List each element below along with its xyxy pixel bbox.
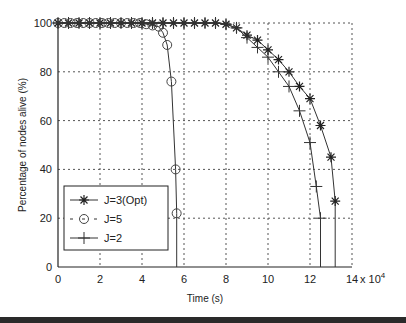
x-axis-label: Time (s) [187, 293, 223, 304]
x-tick-label: 4 [139, 273, 145, 285]
marker-plus [168, 17, 180, 29]
marker-plus [210, 17, 222, 29]
y-axis-label: Percentage of nodes alive (%) [17, 78, 28, 212]
marker-star [295, 81, 305, 91]
marker-star [274, 55, 284, 65]
marker-plus [178, 17, 190, 29]
y-tick-label: 80 [40, 66, 52, 78]
marker-star [79, 195, 89, 205]
marker-plus [273, 66, 285, 78]
marker-plus [283, 80, 295, 92]
y-tick-label: 0 [46, 261, 52, 273]
y-tick-label: 20 [40, 212, 52, 224]
marker-plus [310, 180, 322, 192]
chart: 02468101214020406080100x 104Time (s)Perc… [0, 0, 406, 323]
y-tick-label: 40 [40, 163, 52, 175]
y-tick-label: 100 [34, 17, 52, 29]
marker-star [330, 196, 340, 206]
x-tick-label: 2 [97, 273, 103, 285]
x-multiplier-label: x 104 [360, 271, 386, 285]
x-tick-label: 12 [304, 273, 316, 285]
legend-label: J=5 [104, 213, 122, 225]
x-tick-label: 10 [262, 273, 274, 285]
marker-plus [304, 137, 316, 149]
x-tick-label: 0 [55, 273, 61, 285]
y-tick-label: 60 [40, 115, 52, 127]
marker-star [326, 152, 336, 162]
x-tick-label: 14 [346, 273, 358, 285]
marker-plus [189, 17, 201, 29]
marker-star [284, 67, 294, 77]
marker-plus [220, 18, 232, 30]
marker-plus [315, 212, 327, 224]
marker-plus [294, 105, 306, 117]
x-tick-label: 6 [181, 273, 187, 285]
marker-star [305, 94, 315, 104]
x-tick-label: 8 [223, 273, 229, 285]
legend-label: J=3(Opt) [104, 194, 147, 206]
bottom-bar [0, 317, 406, 323]
legend-label: J=2 [104, 232, 122, 244]
marker-plus [199, 17, 211, 29]
marker-star [316, 120, 326, 130]
